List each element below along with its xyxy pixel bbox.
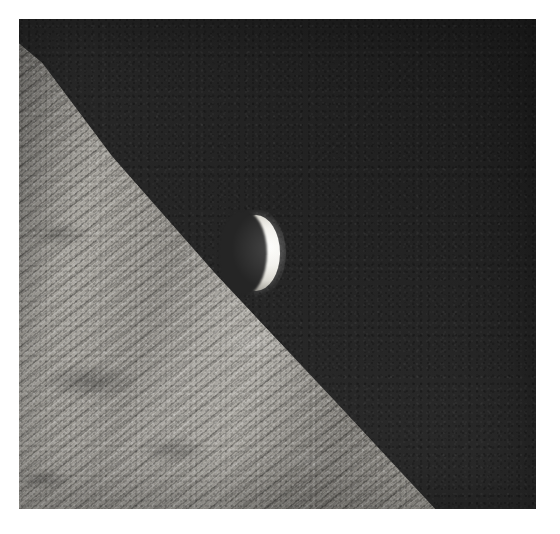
earth-terminator-shadow <box>218 210 266 297</box>
crescent-earthrise-photograph <box>19 19 536 509</box>
crescent-earth <box>232 215 280 291</box>
page-root <box>0 0 560 534</box>
